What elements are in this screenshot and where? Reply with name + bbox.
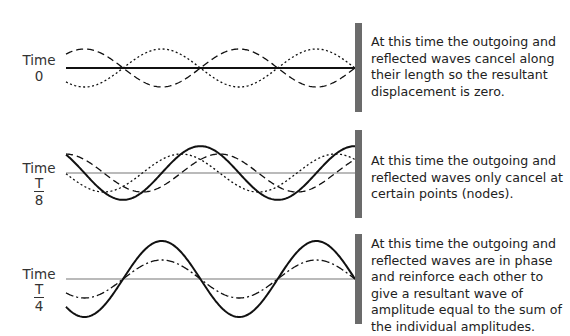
description: At this time the outgoing and reflected … [371,34,566,100]
reflecting-wall [355,234,362,324]
resultant-wave [66,241,355,317]
panel-time-0: Time 0 At this time the outgoing and ref… [0,0,570,120]
time-word: Time [22,160,55,176]
description: At this time the outgoing and reflected … [371,153,566,203]
time-fraction: T 8 [34,176,44,208]
fraction-denominator: 4 [34,298,44,314]
fraction-numerator: T [34,282,44,298]
time-label: Time T 4 [14,266,64,314]
reflecting-wall [355,130,362,218]
outgoing-wave [66,154,355,192]
description: At this time the outgoing and reflected … [371,236,566,336]
time-label: Time T 8 [14,160,64,208]
fraction-denominator: 8 [34,192,44,208]
time-word: Time [22,266,55,282]
time-fraction: T 4 [34,282,44,314]
component-waves [66,260,355,298]
resultant-wave [66,146,355,200]
fraction-numerator: T [34,176,44,192]
reflecting-wall [355,23,362,112]
reflected-wave [66,154,355,192]
